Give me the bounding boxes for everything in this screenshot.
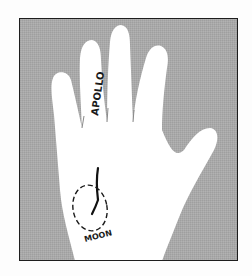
hand-illustration: APOLLO MOON	[0, 0, 252, 276]
hand-silhouette	[51, 25, 217, 261]
